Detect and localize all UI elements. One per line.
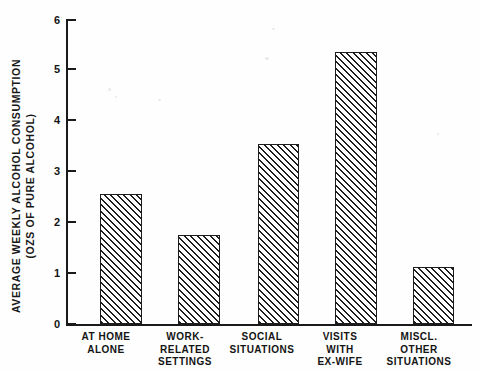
- y-axis-tick-label-5: 5: [38, 63, 60, 75]
- y-axis-title: AVERAGE WEEKLY ALCOHOL CONSUMPTION (OZS …: [0, 0, 46, 372]
- bar-at-home-alone: [100, 194, 142, 324]
- y-axis-tick-label-2: 2: [38, 216, 60, 228]
- y-axis-tick: [68, 68, 76, 70]
- y-axis-title-line-1: AVERAGE WEEKLY ALCOHOL CONSUMPTION: [9, 59, 23, 313]
- x-axis-line: [66, 324, 472, 326]
- y-axis-tick: [68, 221, 76, 223]
- bar-chart: AVERAGE WEEKLY ALCOHOL CONSUMPTION (OZS …: [0, 0, 481, 372]
- y-axis-tick: [68, 119, 76, 121]
- bar-miscl-other: [413, 267, 454, 324]
- y-axis-tick-label-3: 3: [38, 165, 60, 177]
- x-axis-label-miscl-other: MISCL. OTHER SITUATIONS: [372, 331, 466, 369]
- y-axis-tick-label-6: 6: [38, 14, 60, 26]
- bar-social-situations: [258, 144, 299, 324]
- y-axis-title-line-2: (OZS OF PURE ALCOHOL): [23, 59, 37, 313]
- y-axis-tick: [68, 19, 76, 21]
- bar-work-related: [178, 235, 220, 324]
- y-axis-tick-label-4: 4: [38, 114, 60, 126]
- bar-visits-with-ex-wife: [335, 52, 377, 324]
- y-axis-tick: [68, 323, 76, 325]
- y-axis-line: [66, 19, 68, 325]
- y-axis-tick-label-0: 0: [38, 318, 60, 330]
- plot-area: [66, 19, 472, 324]
- y-axis-tick-label-1: 1: [38, 267, 60, 279]
- y-axis-tick: [68, 170, 76, 172]
- y-axis-tick: [68, 272, 76, 274]
